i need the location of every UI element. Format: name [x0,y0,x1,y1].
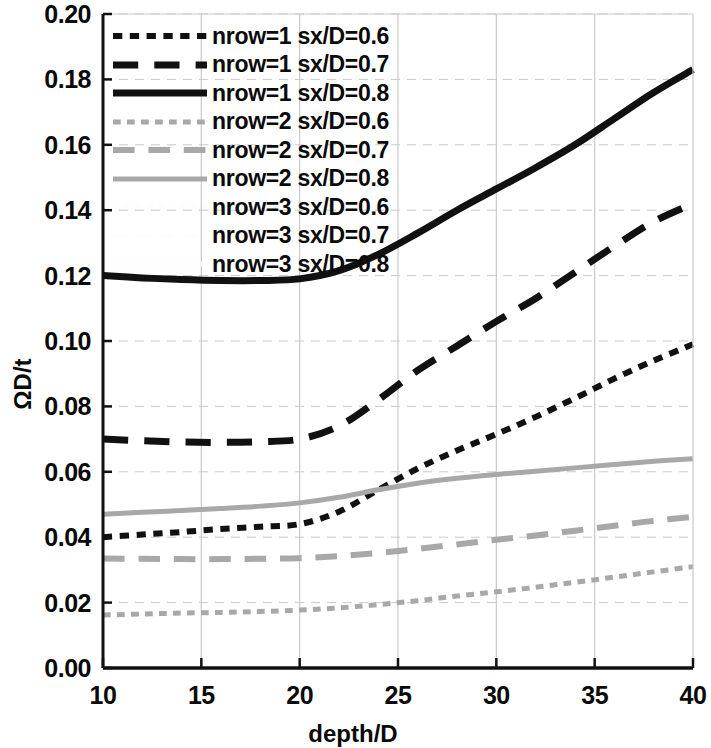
legend-line-swatch [112,86,208,100]
x-tick-label: 35 [560,683,630,708]
y-tick-label: 0.02 [7,590,91,615]
legend-line-swatch [112,200,208,214]
legend-item: nrow=2 sx/D=0.6 [112,108,389,137]
legend-line-swatch [112,172,208,186]
legend-label: nrow=3 sx/D=0.7 [212,224,389,247]
legend-item: nrow=3 sx/D=0.8 [112,250,389,279]
legend-label: nrow=2 sx/D=0.8 [212,167,389,190]
y-tick-label: 0.04 [7,525,91,550]
y-tick-label: 0.06 [7,459,91,484]
legend-label: nrow=3 sx/D=0.8 [212,253,389,276]
legend-label: nrow=1 sx/D=0.6 [212,25,389,48]
legend-item: nrow=1 sx/D=0.7 [112,51,389,80]
y-axis-title: ΩD/t [9,339,37,429]
y-tick-label: 0.12 [7,263,91,288]
x-tick-label: 10 [68,683,138,708]
y-tick-label: 0.16 [7,132,91,157]
legend-line-swatch [112,257,208,271]
x-tick-label: 30 [461,683,531,708]
y-tick-label: 0.18 [7,67,91,92]
legend-item: nrow=1 sx/D=0.8 [112,79,389,108]
legend-item: nrow=3 sx/D=0.6 [112,193,389,222]
legend-line-swatch [112,229,208,243]
y-tick-label: 0.14 [7,198,91,223]
legend-item: nrow=3 sx/D=0.7 [112,222,389,251]
legend-label: nrow=1 sx/D=0.8 [212,82,389,105]
legend-label: nrow=2 sx/D=0.7 [212,139,389,162]
x-tick-label: 15 [166,683,236,708]
legend-item: nrow=2 sx/D=0.7 [112,136,389,165]
x-tick-label: 40 [658,683,711,708]
y-tick-label: 0.20 [7,2,91,27]
legend-line-swatch [112,58,208,72]
y-tick-label: 0.00 [7,656,91,681]
x-tick-label: 20 [265,683,335,708]
legend-line-swatch [112,143,208,157]
legend-label: nrow=3 sx/D=0.6 [212,196,389,219]
legend-item: nrow=1 sx/D=0.6 [112,22,389,51]
chart-legend: nrow=1 sx/D=0.6nrow=1 sx/D=0.7nrow=1 sx/… [112,22,389,279]
legend-line-swatch [112,115,208,129]
legend-item: nrow=2 sx/D=0.8 [112,165,389,194]
legend-label: nrow=2 sx/D=0.6 [212,110,389,133]
legend-line-swatch [112,29,208,43]
legend-label: nrow=1 sx/D=0.7 [212,53,389,76]
x-tick-label: 25 [363,683,433,708]
x-axis-title: depth/D [0,720,706,748]
